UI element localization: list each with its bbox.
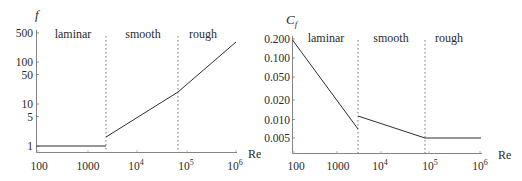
svg-text:106: 106: [227, 158, 243, 172]
svg-text:laminar: laminar: [308, 31, 345, 45]
svg-text:rough: rough: [435, 31, 463, 45]
turbulent-line: [106, 42, 236, 137]
svg-text:500: 500: [16, 27, 34, 39]
svg-text:laminar: laminar: [55, 27, 92, 41]
svg-text:0.005: 0.005: [264, 132, 290, 144]
svg-text:0.100: 0.100: [264, 52, 290, 64]
svg-text:10: 10: [22, 98, 34, 110]
svg-text:105: 105: [178, 158, 194, 172]
svg-text:1: 1: [27, 140, 33, 152]
x-axis-label: Re: [248, 147, 261, 161]
svg-text:1000: 1000: [77, 160, 100, 172]
svg-text:104: 104: [372, 158, 388, 172]
region-labels: laminar smooth rough: [308, 31, 463, 45]
y-axis-label: Cf: [286, 12, 299, 29]
svg-text:0.200: 0.200: [264, 33, 290, 45]
svg-text:rough: rough: [189, 27, 217, 41]
svg-text:100: 100: [16, 56, 34, 68]
y-tick-labels: 500 100 50 10 5 1: [16, 27, 34, 152]
y-tick-labels: 0.200 0.100 0.050 0.020 0.010 0.005: [264, 33, 290, 144]
x-tick-labels: 100 1000 104 105 106: [30, 158, 242, 172]
y-axis-label: f: [35, 7, 41, 22]
svg-text:1000: 1000: [327, 160, 350, 172]
svg-text:0.020: 0.020: [264, 94, 290, 106]
friction-factor-plot: f 500 100 50 10 5 1: [0, 0, 261, 181]
turbulent-line: [358, 116, 481, 138]
svg-text:100: 100: [287, 160, 305, 172]
svg-text:106: 106: [472, 158, 488, 172]
svg-text:smooth: smooth: [125, 27, 160, 41]
data-series: [37, 42, 237, 146]
svg-text:104: 104: [128, 158, 144, 172]
x-axis-label: Re: [498, 148, 511, 162]
x-tick-labels: 100 1000 104 105 106: [287, 158, 487, 172]
friction-factor-chart: f 500 100 50 10 5 1: [0, 0, 261, 181]
svg-text:0.010: 0.010: [264, 114, 290, 126]
data-series: [293, 40, 482, 138]
svg-text:100: 100: [30, 160, 48, 172]
svg-text:smooth: smooth: [373, 31, 408, 45]
laminar-line: [293, 40, 359, 129]
svg-text:50: 50: [22, 69, 34, 81]
svg-text:105: 105: [422, 158, 438, 172]
region-labels: laminar smooth rough: [55, 27, 217, 41]
svg-text:0.050: 0.050: [264, 71, 290, 83]
skin-friction-plot: Cf 0.200 0.100 0.050 0.020 0.010 0.005: [261, 0, 522, 181]
svg-text:5: 5: [27, 111, 33, 123]
skin-friction-chart: Cf 0.200 0.100 0.050 0.020 0.010 0.005: [261, 0, 522, 181]
